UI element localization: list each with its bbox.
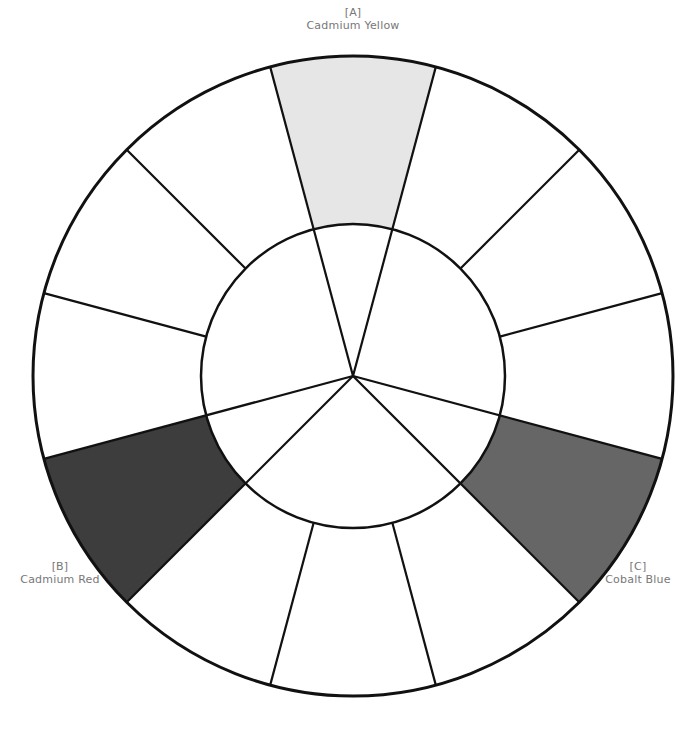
label-b-code: [B] xyxy=(10,560,110,573)
label-a-name: Cadmium Yellow xyxy=(283,19,423,32)
label-c-code: [C] xyxy=(588,560,688,573)
label-b-name: Cadmium Red xyxy=(10,573,110,586)
label-cobalt-blue: [C] Cobalt Blue xyxy=(588,560,688,586)
segment-divider-line xyxy=(127,150,246,269)
label-c-name: Cobalt Blue xyxy=(588,573,688,586)
segment-divider-line xyxy=(392,523,435,685)
color-wheel xyxy=(0,0,697,730)
segment-divider-line xyxy=(270,523,313,685)
segment-divider-line xyxy=(44,293,206,336)
segment-divider-line xyxy=(460,150,579,269)
label-cadmium-yellow: [A] Cadmium Yellow xyxy=(283,6,423,32)
primary-segment-fills xyxy=(44,56,662,602)
label-cadmium-red: [B] Cadmium Red xyxy=(10,560,110,586)
segment-cadmium-yellow xyxy=(270,56,436,229)
label-a-code: [A] xyxy=(283,6,423,19)
segment-divider-line xyxy=(500,293,662,336)
